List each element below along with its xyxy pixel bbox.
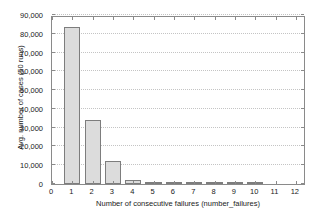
x-tick-mark <box>215 181 216 184</box>
x-tick-label: 4 <box>130 188 134 196</box>
y-tick-label: 0 <box>39 181 47 189</box>
x-tick-label: 12 <box>291 188 299 196</box>
x-tick-mark <box>235 181 236 184</box>
y-tick-mark <box>301 52 304 53</box>
x-tick-mark <box>154 181 155 184</box>
x-tick-mark <box>215 17 216 20</box>
x-tick-mark <box>93 181 94 184</box>
x-tick-mark <box>255 181 256 184</box>
x-tick-mark <box>113 17 114 20</box>
x-tick-label: 10 <box>250 188 258 196</box>
x-tick-mark <box>52 17 53 20</box>
x-tick-label: 2 <box>90 188 94 196</box>
y-tick-mark <box>301 89 304 90</box>
y-tick-mark <box>301 33 304 34</box>
y-axis-title: Avg. number of cases (50 runs) <box>16 8 25 188</box>
x-tick-mark <box>276 181 277 184</box>
x-tick-label: 5 <box>151 188 155 196</box>
x-tick-mark <box>296 181 297 184</box>
x-tick-mark <box>113 181 114 184</box>
plot-area <box>51 16 305 185</box>
x-tick-mark <box>133 181 134 184</box>
y-tick-mark <box>301 108 304 109</box>
y-tick-mark <box>52 108 55 109</box>
x-tick-mark <box>194 181 195 184</box>
y-tick-mark <box>52 127 55 128</box>
y-tick-mark <box>52 14 55 15</box>
x-tick-label: 11 <box>271 188 279 196</box>
x-tick-label: 9 <box>232 188 236 196</box>
y-tick-mark <box>301 145 304 146</box>
x-tick-label: 0 <box>49 188 53 196</box>
gridline-horizontal <box>52 14 304 15</box>
x-tick-mark <box>276 17 277 20</box>
x-tick-mark <box>235 17 236 20</box>
x-tick-label: 1 <box>69 188 73 196</box>
x-tick-mark <box>154 17 155 20</box>
x-tick-mark <box>72 181 73 184</box>
bar-chart-figure: 010,00020,00030,00040,00050,00060,00070,… <box>0 0 329 216</box>
x-tick-mark <box>174 17 175 20</box>
x-tick-mark <box>296 17 297 20</box>
x-tick-label: 7 <box>191 188 195 196</box>
y-tick-mark <box>52 89 55 90</box>
x-tick-label: 8 <box>211 188 215 196</box>
x-tick-label: 6 <box>171 188 175 196</box>
x-tick-mark <box>194 17 195 20</box>
x-tick-mark <box>133 17 134 20</box>
y-tick-mark <box>301 164 304 165</box>
x-tick-mark <box>255 17 256 20</box>
x-axis-title: Number of consecutive failures (number_f… <box>51 199 305 208</box>
y-tick-mark <box>301 183 304 184</box>
y-tick-mark <box>52 70 55 71</box>
y-tick-mark <box>301 127 304 128</box>
y-tick-mark <box>301 70 304 71</box>
y-tick-mark <box>301 14 304 15</box>
y-tick-mark <box>52 164 55 165</box>
tick-mark-layer <box>52 17 304 184</box>
y-tick-mark <box>52 33 55 34</box>
x-tick-label: 3 <box>110 188 114 196</box>
y-tick-mark <box>52 52 55 53</box>
x-tick-mark <box>93 17 94 20</box>
y-tick-mark <box>52 183 55 184</box>
x-tick-mark <box>72 17 73 20</box>
y-tick-mark <box>52 145 55 146</box>
x-tick-mark <box>174 181 175 184</box>
